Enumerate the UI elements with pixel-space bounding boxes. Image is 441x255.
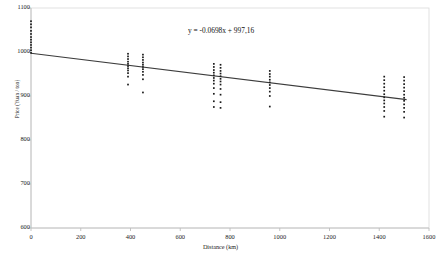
x-axis-tick-label: 400 [111,234,151,240]
x-axis-tick-label: 1200 [310,234,350,240]
x-axis-tick-label: 800 [210,234,250,240]
x-axis-tick-label: 0 [11,234,51,240]
x-axis-tick-label: 600 [160,234,200,240]
x-axis-tick-labels: 02004006008001000120014001600 [0,0,441,255]
x-axis-tick-label: 1600 [409,234,441,240]
x-axis-tick-label: 1400 [359,234,399,240]
x-axis-tick-label: 1000 [260,234,300,240]
scatter-chart: Price (Yuan / ton) 60070080090010001100 … [0,0,441,255]
trendline-equation-label: y = -0.0698x + 997,16 [188,26,254,35]
x-axis-tick-label: 200 [61,234,101,240]
x-axis-title: Distance (km) [0,243,441,250]
